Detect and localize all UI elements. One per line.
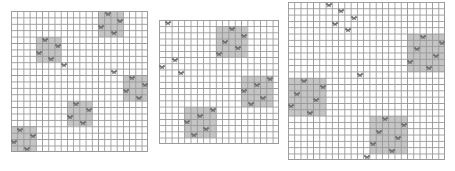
butterfly-icon: [407, 59, 413, 65]
butterfly-icon: [241, 33, 247, 39]
butterfly-icon: [401, 122, 407, 128]
butterfly-icon: [248, 101, 254, 107]
grid-3: [288, 2, 445, 160]
grid-2: [159, 20, 279, 144]
butterfly-icon: [159, 64, 165, 70]
butterfly-icon: [332, 21, 338, 27]
butterfly-icon: [414, 46, 420, 52]
butterfly-icon: [48, 56, 54, 62]
butterfly-icon: [439, 40, 445, 46]
butterfly-icon: [229, 26, 235, 32]
butterfly-icon: [129, 75, 135, 81]
butterfly-icon: [345, 27, 351, 33]
butterfly-icon: [11, 139, 17, 145]
butterfly-icon: [370, 141, 376, 147]
butterfly-icon: [61, 62, 67, 68]
butterfly-icon: [376, 129, 382, 135]
butterfly-icon: [80, 120, 86, 126]
butterfly-icon: [426, 65, 432, 71]
butterfly-icon: [42, 37, 48, 43]
butterfly-icon: [111, 69, 117, 75]
butterfly-icon: [395, 135, 401, 141]
butterfly-icon: [338, 8, 344, 14]
butterfly-icon: [313, 97, 319, 103]
butterfly-icon: [389, 148, 395, 154]
butterfly-icon: [36, 50, 42, 56]
butterfly-icon: [184, 119, 190, 125]
butterfly-icon: [288, 103, 294, 109]
butterfly-icon: [294, 91, 300, 97]
butterfly-icon: [420, 34, 426, 40]
butterfly-icon: [98, 24, 104, 30]
butterfly-icon: [260, 95, 266, 101]
butterfly-icon: [326, 2, 332, 8]
butterfly-icon: [30, 133, 36, 139]
butterfly-icon: [267, 76, 273, 82]
butterfly-icon: [241, 88, 247, 94]
butterfly-icon: [210, 107, 216, 113]
butterfly-icon: [55, 43, 61, 49]
butterfly-icon: [123, 88, 129, 94]
butterfly-icon: [320, 84, 326, 90]
butterfly-icon: [222, 39, 228, 45]
butterfly-icon: [382, 116, 388, 122]
butterfly-icon: [172, 57, 178, 63]
butterfly-icon: [73, 101, 79, 107]
butterfly-icon: [105, 11, 111, 17]
butterfly-icon: [142, 82, 148, 88]
butterfly-icon: [67, 114, 73, 120]
grid-1: [11, 11, 148, 152]
butterfly-icon: [254, 82, 260, 88]
butterfly-icon: [86, 107, 92, 113]
butterfly-icon: [351, 15, 357, 21]
butterfly-icon: [17, 127, 23, 133]
butterfly-icon: [136, 95, 142, 101]
butterfly-icon: [117, 18, 123, 24]
butterfly-icon: [357, 72, 363, 78]
butterfly-icon: [216, 51, 222, 57]
butterfly-icon: [191, 132, 197, 138]
butterfly-icon: [203, 126, 209, 132]
butterfly-icon: [307, 110, 313, 116]
butterfly-icon: [433, 53, 439, 59]
butterfly-icon: [197, 113, 203, 119]
butterfly-icon: [364, 154, 370, 160]
butterfly-icon: [111, 30, 117, 36]
butterfly-icon: [235, 45, 241, 51]
butterfly-icon: [24, 146, 30, 152]
butterfly-icon: [301, 78, 307, 84]
butterfly-icon: [178, 70, 184, 76]
butterfly-icon: [165, 20, 171, 26]
